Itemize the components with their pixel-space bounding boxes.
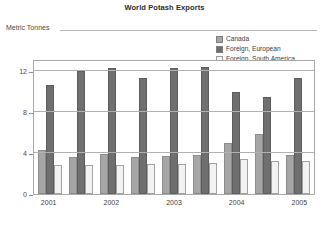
- legend-item[interactable]: Foreign, European: [216, 44, 295, 54]
- bar-group: [220, 61, 251, 194]
- bar[interactable]: [116, 165, 124, 194]
- bar[interactable]: [224, 143, 232, 194]
- bar[interactable]: [54, 165, 62, 194]
- y-tick-mark: [29, 72, 33, 73]
- bar[interactable]: [302, 161, 310, 194]
- x-tick-label: 2005: [279, 199, 319, 206]
- bar[interactable]: [162, 156, 170, 194]
- bar[interactable]: [100, 154, 108, 194]
- y-tick-mark: [29, 113, 33, 114]
- bar[interactable]: [240, 159, 248, 194]
- bar-group: [97, 61, 128, 194]
- y-tick-mark: [29, 154, 33, 155]
- bar[interactable]: [108, 68, 116, 194]
- gridline: [34, 111, 314, 112]
- bar[interactable]: [147, 164, 155, 194]
- y-axis-label-rule: [60, 30, 317, 31]
- bar-group: [159, 61, 190, 194]
- bar[interactable]: [232, 92, 240, 194]
- gridline: [34, 70, 314, 71]
- y-axis-label: Metric Tonnes: [6, 24, 49, 31]
- bar[interactable]: [139, 78, 147, 194]
- bar-group: [282, 61, 313, 194]
- bar[interactable]: [193, 155, 201, 194]
- x-tick-label: 2001: [29, 199, 69, 206]
- y-tick-label: 0: [5, 191, 27, 198]
- chart-container: World Potash Exports Metric Tonnes Canad…: [0, 0, 329, 225]
- bar-group: [35, 61, 66, 194]
- x-tick-label: 2003: [154, 199, 194, 206]
- bar-group: [66, 61, 97, 194]
- legend-swatch-icon: [216, 36, 223, 43]
- bar-group: [251, 61, 282, 194]
- x-tick-label: 2002: [91, 199, 131, 206]
- bar[interactable]: [170, 68, 178, 194]
- chart-title: World Potash Exports: [0, 3, 329, 12]
- x-tick-label: 2004: [217, 199, 257, 206]
- bar[interactable]: [255, 134, 263, 194]
- bar[interactable]: [178, 164, 186, 194]
- bar[interactable]: [209, 163, 217, 194]
- legend-label: Canada: [226, 35, 249, 43]
- legend-label: Foreign, European: [226, 45, 281, 53]
- bar-groups: [34, 61, 314, 194]
- bar-group: [189, 61, 220, 194]
- legend-item[interactable]: Canada: [216, 34, 295, 44]
- bar-group: [128, 61, 159, 194]
- bar[interactable]: [271, 161, 279, 194]
- y-tick-mark: [29, 195, 33, 196]
- bar[interactable]: [77, 71, 85, 194]
- gridline: [34, 152, 314, 153]
- bar[interactable]: [38, 150, 46, 194]
- bar[interactable]: [85, 165, 93, 194]
- bar[interactable]: [131, 157, 139, 194]
- y-tick-label: 8: [5, 109, 27, 116]
- legend-swatch-icon: [216, 46, 223, 53]
- y-tick-label: 12: [5, 68, 27, 75]
- bar[interactable]: [294, 78, 302, 194]
- bar[interactable]: [201, 67, 209, 194]
- y-tick-label: 4: [5, 150, 27, 157]
- bar[interactable]: [69, 157, 77, 194]
- plot-area: [33, 60, 315, 195]
- bar[interactable]: [46, 85, 54, 194]
- bar[interactable]: [286, 155, 294, 194]
